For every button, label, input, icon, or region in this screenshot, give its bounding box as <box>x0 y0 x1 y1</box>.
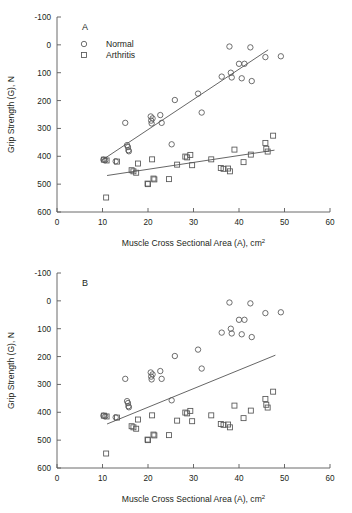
data-point-arthritis <box>150 157 155 162</box>
x-tick-label: 0 <box>55 474 60 483</box>
data-point-arthritis <box>166 177 171 182</box>
panel-a: 6005004003002001000-1000102030405060 Nor… <box>0 0 352 257</box>
y-tick-label: 0 <box>46 41 51 50</box>
data-point-arthritis <box>248 408 253 413</box>
data-point-arthritis <box>232 147 237 152</box>
data-point-normal <box>219 330 224 335</box>
data-point-arthritis <box>241 416 246 421</box>
panel-b: 6005004003002001000-1000102030405060 Mus… <box>0 256 352 513</box>
panel-a-axes: 6005004003002001000-1000102030405060 <box>35 13 335 227</box>
data-point-normal <box>263 310 268 315</box>
y-tick-label: 100 <box>37 69 51 78</box>
data-point-arthritis <box>241 160 246 165</box>
data-point-normal <box>199 110 204 115</box>
x-tick-label: 60 <box>325 474 335 483</box>
data-point-arthritis <box>190 419 195 424</box>
data-point-normal <box>227 44 232 49</box>
data-point-normal <box>158 368 163 373</box>
panel-a-legend: NormalArthritis <box>81 39 135 60</box>
data-point-normal <box>263 54 268 59</box>
x-tick-label: 50 <box>280 218 290 227</box>
data-point-normal <box>158 112 163 117</box>
regression-line <box>102 50 269 161</box>
x-axis-title: Muscle Cross Sectional Area (A), cm2 <box>122 494 266 504</box>
data-point-normal <box>172 353 177 358</box>
data-point-normal <box>236 61 241 66</box>
x-tick-label: 0 <box>55 218 60 227</box>
data-point-arthritis <box>232 403 237 408</box>
data-point-normal <box>219 74 224 79</box>
x-tick-label: 40 <box>234 218 244 227</box>
data-point-normal <box>278 54 283 59</box>
panel-letter-b: B <box>82 278 88 288</box>
y-tick-label: 400 <box>37 152 51 161</box>
data-point-normal <box>239 332 244 337</box>
y-tick-label: 500 <box>37 180 51 189</box>
data-point-normal <box>169 142 174 147</box>
y-tick-label: -100 <box>35 269 52 278</box>
data-point-arthritis <box>263 140 268 145</box>
x-tick-label: 20 <box>143 474 153 483</box>
y-tick-label: 400 <box>37 408 51 417</box>
legend-square-marker <box>82 53 87 58</box>
data-point-arthritis <box>166 433 171 438</box>
data-point-normal <box>199 366 204 371</box>
x-tick-label: 30 <box>189 218 199 227</box>
y-tick-label: 300 <box>37 380 51 389</box>
data-point-normal <box>195 347 200 352</box>
data-point-normal <box>123 120 128 125</box>
data-point-normal <box>249 334 254 339</box>
data-point-normal <box>239 76 244 81</box>
data-point-arthritis <box>135 417 140 422</box>
y-tick-label: 600 <box>37 464 51 473</box>
panel-a-plot: 6005004003002001000-1000102030405060 Nor… <box>0 0 352 257</box>
y-tick-label: 600 <box>37 208 51 217</box>
y-tick-label: -100 <box>35 13 52 22</box>
panel-b-plot: 6005004003002001000-1000102030405060 Mus… <box>0 256 352 513</box>
data-point-normal <box>248 45 253 50</box>
y-tick-label: 500 <box>37 436 51 445</box>
regression-line <box>107 150 274 175</box>
data-point-arthritis <box>271 389 276 394</box>
data-point-arthritis <box>135 161 140 166</box>
x-axis-title-superscript: 2 <box>262 494 266 500</box>
data-point-arthritis <box>104 451 109 456</box>
data-point-arthritis <box>175 418 180 423</box>
legend-label: Arthritis <box>106 50 135 60</box>
panel-a-series <box>101 44 284 200</box>
data-point-arthritis <box>271 133 276 138</box>
data-point-normal <box>278 310 283 315</box>
data-point-normal <box>227 300 232 305</box>
panel-b-series <box>101 300 284 456</box>
data-point-normal <box>248 301 253 306</box>
data-point-arthritis <box>248 152 253 157</box>
figure-two-panel-scatter: 6005004003002001000-1000102030405060 Nor… <box>0 0 352 513</box>
y-tick-label: 200 <box>37 353 51 362</box>
data-point-normal <box>249 78 254 83</box>
panel-b-axes: 6005004003002001000-1000102030405060 <box>35 269 335 483</box>
x-axis-title-superscript: 2 <box>262 238 266 244</box>
y-tick-label: 100 <box>37 325 51 334</box>
panel-letter-a: A <box>82 22 88 32</box>
x-tick-label: 30 <box>189 474 199 483</box>
data-point-normal <box>123 376 128 381</box>
x-tick-label: 20 <box>143 218 153 227</box>
x-tick-label: 10 <box>98 218 108 227</box>
data-point-normal <box>236 317 241 322</box>
data-point-normal <box>159 376 164 381</box>
x-tick-label: 60 <box>325 218 335 227</box>
y-tick-label: 300 <box>37 124 51 133</box>
y-axis-title: Grip Strength (G), N <box>6 76 16 153</box>
data-point-arthritis <box>190 163 195 168</box>
x-tick-label: 50 <box>280 474 290 483</box>
data-point-arthritis <box>150 413 155 418</box>
data-point-arthritis <box>263 396 268 401</box>
data-point-normal <box>172 97 177 102</box>
x-tick-label: 10 <box>98 474 108 483</box>
legend-label: Normal <box>106 39 134 49</box>
y-tick-label: 200 <box>37 97 51 106</box>
legend-circle-marker <box>81 41 86 46</box>
x-tick-label: 40 <box>234 474 244 483</box>
y-tick-label: 0 <box>46 297 51 306</box>
data-point-normal <box>242 317 247 322</box>
